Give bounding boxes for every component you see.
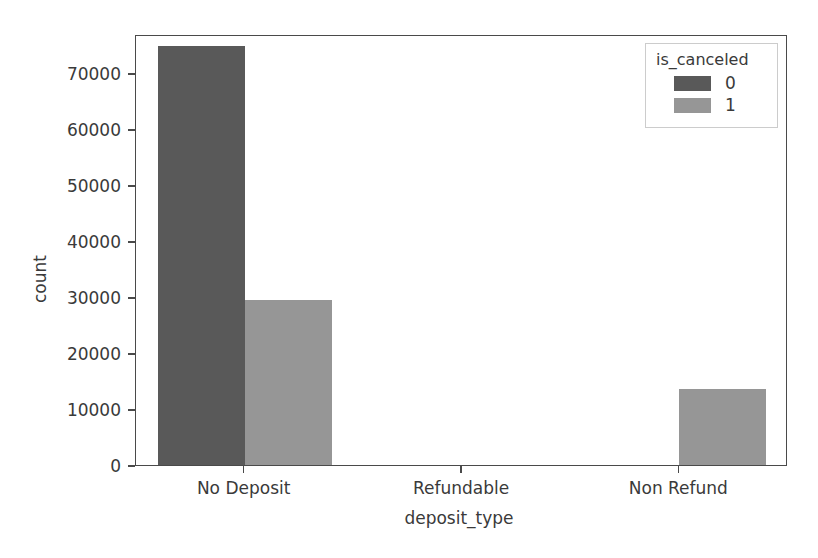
x-tick-mark [243,466,245,473]
bar [245,300,332,465]
y-tick-mark [128,465,135,467]
legend-title: is_canceled [656,50,767,69]
x-tick-mark [460,466,462,473]
y-tick-mark [128,241,135,243]
legend: is_canceled 01 [645,43,778,128]
y-tick-label: 10000 [67,400,121,420]
y-tick-label: 30000 [67,288,121,308]
legend-entry-label: 1 [725,97,736,114]
y-tick-label: 70000 [67,64,121,84]
x-tick-label: Refundable [413,478,509,498]
y-tick-mark [128,129,135,131]
legend-entry: 1 [674,97,767,114]
y-tick-mark [128,185,135,187]
y-tick-label: 60000 [67,120,121,140]
bar [158,46,245,465]
y-tick-label: 40000 [67,232,121,252]
legend-entries: 01 [656,75,767,114]
y-axis-label: count [30,255,50,303]
y-tick-mark [128,353,135,355]
legend-swatch [674,98,711,113]
x-tick-label: Non Refund [629,478,728,498]
y-tick-mark [128,409,135,411]
legend-swatch [674,76,711,91]
x-tick-label: No Deposit [197,478,291,498]
bar [679,389,766,465]
bar-chart-figure: 010000200003000040000500006000070000 cou… [0,0,818,558]
y-tick-mark [128,73,135,75]
x-tick-mark [678,466,680,473]
y-tick-mark [128,297,135,299]
y-tick-label: 0 [110,456,121,476]
legend-entry-label: 0 [725,75,736,92]
legend-entry: 0 [674,75,767,92]
y-tick-label: 20000 [67,344,121,364]
x-axis-label: deposit_type [404,508,513,528]
y-tick-label: 50000 [67,176,121,196]
